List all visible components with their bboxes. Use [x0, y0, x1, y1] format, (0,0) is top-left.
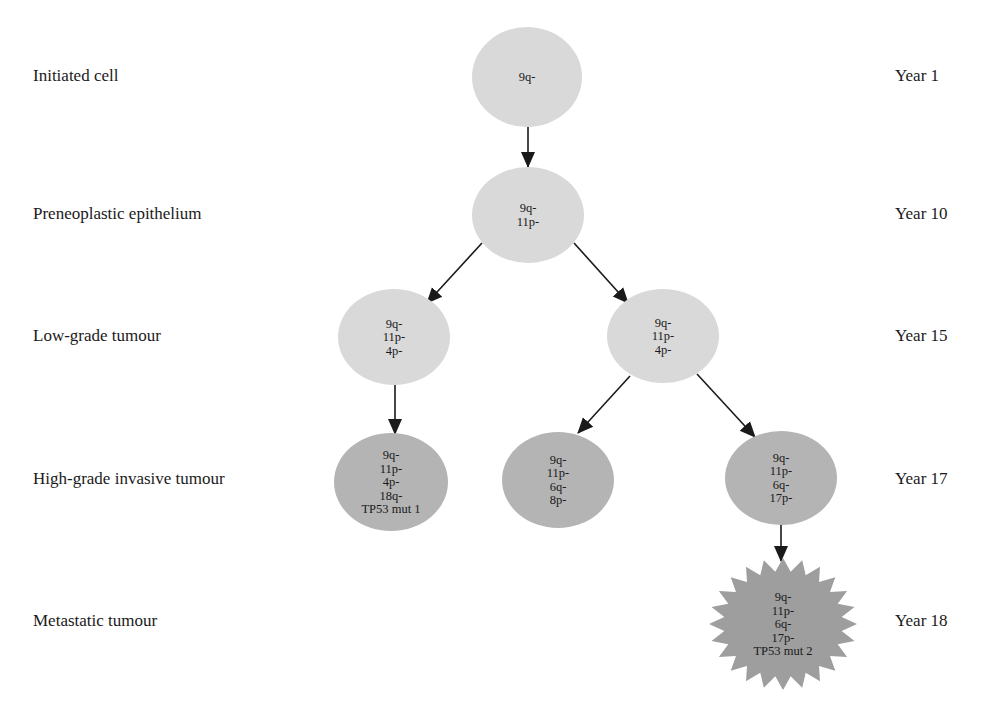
genetic-alteration-label: 18q- [380, 489, 403, 503]
genetic-alteration-label: 9q- [519, 70, 536, 84]
genetic-alteration-label: 9q- [775, 590, 792, 604]
node-highgrade-left: 9q-11p-4p-18q-TP53 mut 1 [334, 433, 448, 531]
genetic-alteration-label: 4p- [655, 343, 672, 357]
genetic-alteration-label: 9q- [383, 448, 400, 462]
arrow-preneoplastic-to-lowgrade-left [427, 243, 482, 303]
node-preneoplastic: 9q-11p- [472, 167, 584, 263]
genetic-alteration-label: 6q- [775, 617, 792, 631]
genetic-alteration-label: 17p- [772, 631, 795, 645]
node-lowgrade-left: 9q-11p-4p- [338, 289, 450, 385]
node-highgrade-right: 9q-11p-6q-17p- [725, 431, 837, 525]
genetic-alteration-label: 4p- [383, 475, 400, 489]
genetic-alteration-label: 11p- [772, 604, 794, 618]
genetic-alteration-label: 9q- [773, 451, 790, 465]
genetic-alteration-label: 8p- [550, 493, 567, 507]
node-metastatic: 9q-11p-6q-17p-TP53 mut 2 [709, 558, 857, 690]
genetic-alteration-label: 6q- [773, 478, 790, 492]
genetic-alteration-label: TP53 mut 1 [361, 502, 420, 516]
genetic-alteration-label: 9q- [520, 201, 537, 215]
genetic-alteration-label: 6q- [550, 480, 567, 494]
node-lowgrade-right: 9q-11p-4p- [607, 289, 719, 383]
nodes: 9q-9q-11p-9q-11p-4p-9q-11p-4p-9q-11p-4p-… [334, 27, 857, 690]
genetic-alteration-label: TP53 mut 2 [753, 644, 812, 658]
arrow-preneoplastic-to-lowgrade-right [574, 243, 628, 303]
node-initiated: 9q- [472, 27, 582, 127]
arrow-lowgrade-right-to-highgrade-middle [578, 376, 630, 433]
genetic-alteration-label: 11p- [770, 464, 792, 478]
genetic-alteration-label: 11p- [380, 462, 402, 476]
genetic-alteration-label: 11p- [517, 215, 539, 229]
arrow-lowgrade-right-to-highgrade-right [697, 374, 755, 437]
genetic-alteration-label: 9q- [550, 453, 567, 467]
genetic-alteration-label: 17p- [770, 491, 793, 505]
genetic-alteration-label: 9q- [655, 316, 672, 330]
tumour-progression-diagram: 9q-9q-11p-9q-11p-4p-9q-11p-4p-9q-11p-4p-… [0, 0, 993, 714]
genetic-alteration-label: 4p- [386, 344, 403, 358]
genetic-alteration-label: 11p- [652, 329, 674, 343]
genetic-alteration-label: 11p- [547, 466, 569, 480]
node-highgrade-middle: 9q-11p-6q-8p- [502, 432, 614, 528]
genetic-alteration-label: 11p- [383, 330, 405, 344]
genetic-alteration-label: 9q- [386, 317, 403, 331]
